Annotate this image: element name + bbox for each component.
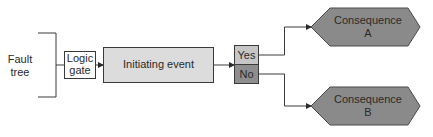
logic-gate-label: Logic gate xyxy=(64,52,96,76)
logic-gate-label-line1: Logic xyxy=(64,52,96,64)
consequence-b-label-line2: B xyxy=(318,106,418,119)
fault-tree-label: Fault tree xyxy=(2,53,38,79)
consequence-a-label: Consequence A xyxy=(318,14,418,40)
no-path xyxy=(259,74,312,106)
yes-path xyxy=(259,27,312,55)
initiating-event-label: Initiating event xyxy=(103,58,214,70)
consequence-a-label-line2: A xyxy=(318,27,418,40)
consequence-b-label-line1: Consequence xyxy=(318,93,418,106)
yes-label: Yes xyxy=(234,49,259,61)
fault-tree-label-line1: Fault xyxy=(2,53,38,66)
no-label: No xyxy=(234,68,259,80)
fault-tree-bracket xyxy=(38,33,64,97)
consequence-b-label: Consequence B xyxy=(318,93,418,119)
consequence-a-label-line1: Consequence xyxy=(318,14,418,27)
fault-tree-label-line2: tree xyxy=(2,66,38,79)
logic-gate-label-line2: gate xyxy=(64,64,96,76)
